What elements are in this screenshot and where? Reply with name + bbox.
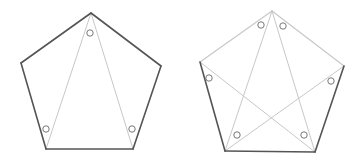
diagonal-line	[272, 11, 315, 152]
pentagon-edge	[225, 151, 315, 152]
angle-marker-circle	[87, 30, 93, 36]
angle-marker-circle	[328, 78, 334, 84]
diagonal-line	[200, 62, 315, 152]
angle-marker-circle	[206, 75, 212, 81]
angle-marker-circle	[43, 126, 49, 132]
angle-marker-circle	[301, 132, 307, 138]
pentagon-edge	[21, 13, 91, 63]
pentagon-edge	[133, 66, 161, 149]
pentagon-edge	[91, 13, 161, 66]
angle-marker-circle	[258, 22, 264, 28]
diagonal-line	[225, 11, 272, 151]
pentagon-edge	[21, 63, 46, 149]
angle-marker-circle	[280, 23, 286, 29]
pentagon-edge	[200, 62, 225, 151]
diagonal-line	[91, 13, 133, 149]
diagonal-line	[225, 66, 344, 151]
diagonal-line	[46, 13, 91, 149]
diagram-canvas	[0, 0, 361, 161]
pentagon-edge-light	[200, 11, 272, 62]
angle-marker-circle	[129, 126, 135, 132]
angle-marker-circle	[234, 132, 240, 138]
pentagon-edge-light	[272, 11, 344, 66]
